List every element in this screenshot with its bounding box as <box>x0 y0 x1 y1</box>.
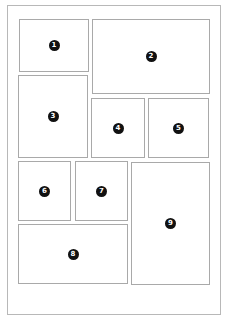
number-badge-6: 6 <box>39 186 50 197</box>
number-badge-5: 5 <box>173 123 184 134</box>
number-badge-8: 8 <box>68 249 79 260</box>
panel-3: 3 <box>18 75 88 158</box>
number-badge-9: 9 <box>165 218 176 229</box>
panel-5: 5 <box>148 98 209 158</box>
number-badge-3: 3 <box>48 111 59 122</box>
number-badge-4: 4 <box>113 123 124 134</box>
panel-2: 2 <box>92 19 210 94</box>
panel-6: 6 <box>18 161 71 221</box>
number-badge-7: 7 <box>96 186 107 197</box>
caption-text <box>16 289 206 299</box>
number-badge-2: 2 <box>146 51 157 62</box>
number-badge-1: 1 <box>49 40 60 51</box>
panel-9: 9 <box>131 162 210 285</box>
panel-8: 8 <box>18 224 128 284</box>
panel-4: 4 <box>91 98 145 158</box>
panel-1: 1 <box>19 19 89 72</box>
panel-7: 7 <box>75 161 128 221</box>
